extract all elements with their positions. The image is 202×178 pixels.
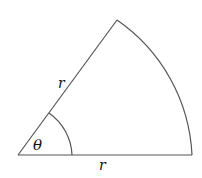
sector-diagram [0,0,202,178]
sector-arc [117,20,192,155]
angle-arc [49,113,72,155]
base-radius-label: r [99,158,106,172]
slant-radius-label: r [58,76,65,90]
angle-theta-label: θ [33,138,42,153]
